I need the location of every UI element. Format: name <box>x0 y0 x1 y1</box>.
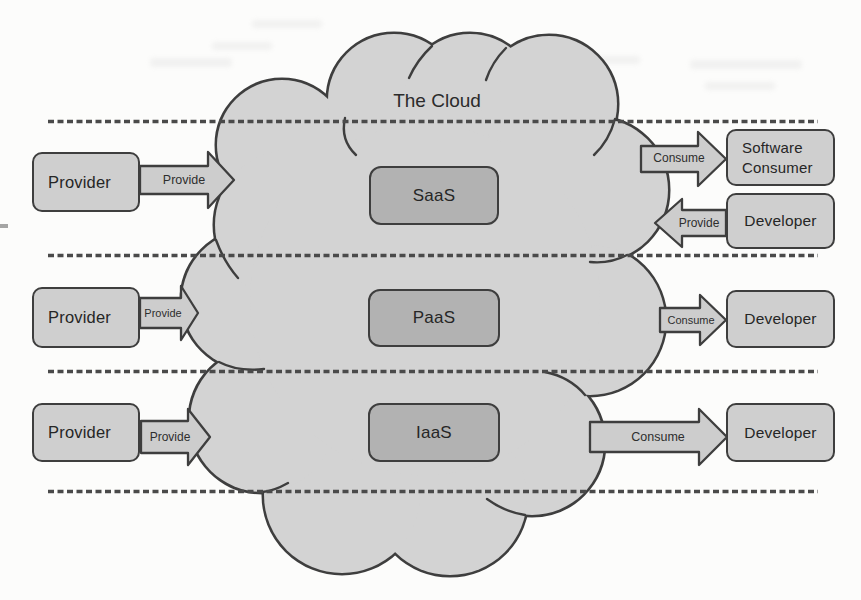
service-box-saas: SaaS <box>369 166 499 225</box>
service-box-paas: PaaS <box>368 289 500 347</box>
provide-arrow-label-paas: Provide <box>144 307 181 319</box>
provider-box-iaas: Provider <box>32 403 140 462</box>
software-consumer-box: Software Consumer <box>726 129 835 186</box>
consume-arrow-label-paas: Consume <box>667 314 714 326</box>
provide-arrow-label-saas: Provide <box>163 173 205 187</box>
consume-arrow-label-saas: Consume <box>653 151 704 165</box>
service-box-iaas: IaaS <box>368 403 500 462</box>
provider-box-paas: Provider <box>32 287 140 348</box>
developer-box-iaas: Developer <box>726 403 835 462</box>
provide-arrow-label-iaas: Provide <box>150 430 191 444</box>
cloud-architecture-diagram: The Cloud SaaS PaaS IaaS Provider Provid… <box>0 0 861 600</box>
provide-arrow-label-developer: Provide <box>679 216 720 230</box>
cloud-title: The Cloud <box>393 90 481 112</box>
consume-arrow-label-iaas: Consume <box>631 430 685 444</box>
developer-box-saas: Developer <box>726 193 835 249</box>
developer-box-paas: Developer <box>726 290 835 348</box>
provider-box-saas: Provider <box>32 152 140 212</box>
